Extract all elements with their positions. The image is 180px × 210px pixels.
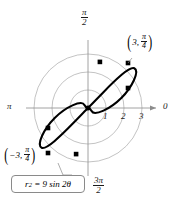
point-label-content: 3, π 4	[132, 33, 147, 51]
radial-tick-label-2: 2	[121, 112, 126, 121]
fraction-denominator: 2	[81, 18, 88, 27]
point-label-neg3-pi-over-4: ( −3, π 4 )	[3, 146, 37, 164]
angle-label-zero: 0	[163, 102, 168, 111]
radial-tick-label-1: 1	[103, 112, 108, 121]
point-radius-value: 3,	[132, 37, 139, 47]
point-label-3-pi-over-4: ( 3, π 4 )	[126, 33, 153, 51]
point-marker	[46, 126, 51, 131]
origin-marker	[86, 106, 91, 111]
point-label-content: −3, π 4	[9, 146, 30, 164]
angle-label-pi-over-2: π 2	[81, 8, 88, 28]
open-paren: (	[127, 34, 131, 50]
lemniscate-upper-lobe	[88, 68, 136, 113]
point-marker	[98, 60, 103, 65]
angle-label-three-pi-over-2: 3π 2	[93, 176, 104, 196]
fraction-denominator: 4	[24, 155, 30, 163]
open-paren: (	[4, 147, 8, 163]
radial-tick-label-3: 3	[139, 112, 144, 121]
point-radius-value: −3,	[9, 150, 22, 160]
point-marker	[46, 151, 51, 156]
equation-leader-line	[58, 163, 72, 175]
equation-callout-box: r2 = 9 sin 2θ	[11, 175, 85, 193]
polar-axes	[26, 40, 156, 176]
fraction-pi-over-4: π 4	[141, 33, 147, 51]
equation-exponent: 2	[29, 181, 32, 188]
equation-expression: = 9 sin 2θ	[34, 179, 71, 189]
angle-label-pi: π	[7, 102, 12, 111]
fraction-pi-over-4: π 4	[24, 146, 30, 164]
polar-chart-figure: π 2 π 0 3π 2 1 2 3 ( 3, π 4 ) ( −3,	[0, 0, 180, 210]
fraction-denominator: 2	[93, 186, 104, 195]
fraction-pi-over-2: π 2	[81, 8, 88, 28]
point-marker	[74, 152, 79, 157]
fraction-three-pi-over-2: 3π 2	[93, 176, 104, 196]
point-marker	[126, 86, 131, 91]
close-paren: )	[31, 147, 35, 163]
fraction-denominator: 4	[141, 42, 147, 50]
close-paren: )	[148, 34, 152, 50]
lemniscate-lower-lobe	[40, 103, 88, 148]
axis-arrow-icon	[150, 105, 156, 110]
